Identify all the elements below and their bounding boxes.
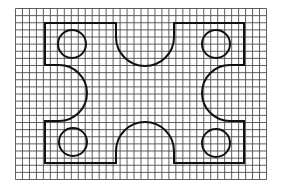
bottom-left-hole: [59, 128, 87, 156]
grid-diagram: [0, 0, 282, 189]
grid-lines: [16, 9, 267, 180]
bottom-right-hole: [202, 129, 230, 157]
